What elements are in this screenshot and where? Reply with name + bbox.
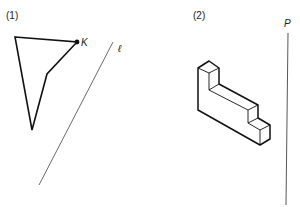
point-k-label: K <box>81 37 89 48</box>
figure-1-label: (1) <box>6 10 18 21</box>
line-l-label: ℓ <box>117 43 122 54</box>
diagram-canvas: (1) K ℓ (2) P <box>0 0 300 207</box>
figure-2-label: (2) <box>193 10 205 21</box>
plane-p-line <box>286 33 288 205</box>
isometric-block <box>198 61 270 145</box>
quadrilateral-shape <box>15 37 77 130</box>
line-l <box>39 42 113 185</box>
point-k <box>75 40 80 45</box>
plane-p-label: P <box>284 18 291 29</box>
